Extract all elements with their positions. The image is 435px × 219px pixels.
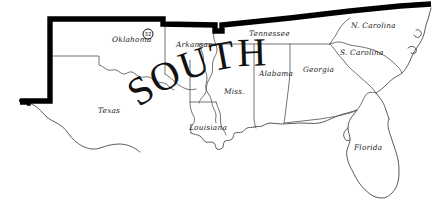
gulf-coast — [254, 110, 357, 127]
north-carolina-coast — [402, 8, 431, 73]
state-label-texas: Texas — [98, 106, 120, 115]
state-label-mississippi: Miss. — [223, 87, 245, 96]
texas-outline — [28, 101, 140, 152]
state-label-arkansas: Arkansas — [175, 40, 212, 49]
south-carolina-coast — [376, 73, 402, 93]
map-container: SOUTH Texas Oklahoma Arkansas Louisiana … — [0, 0, 435, 219]
south-region-map: SOUTH Texas Oklahoma Arkansas Louisiana … — [0, 0, 435, 219]
state-label-florida: Florida — [353, 143, 382, 152]
state-label-georgia: Georgia — [303, 65, 334, 74]
state-label-alabama: Alabama — [258, 69, 293, 78]
alabama-georgia-border — [284, 44, 290, 123]
state-label-north-carolina: N. Carolina — [350, 21, 396, 30]
georgia-florida-coast — [376, 93, 389, 119]
florida-north-border — [284, 92, 376, 123]
tennessee-north-carolina-border — [330, 18, 350, 44]
outer-banks-detail — [414, 30, 421, 38]
florida-peninsula — [347, 110, 399, 198]
state-label-louisiana: Louisiana — [188, 123, 227, 132]
map-marker-32[interactable]: 32 — [143, 29, 153, 39]
state-label-tennessee: Tennessee — [249, 29, 290, 38]
state-label-south-carolina: S. Carolina — [340, 48, 384, 57]
marker-number: 32 — [145, 31, 152, 37]
